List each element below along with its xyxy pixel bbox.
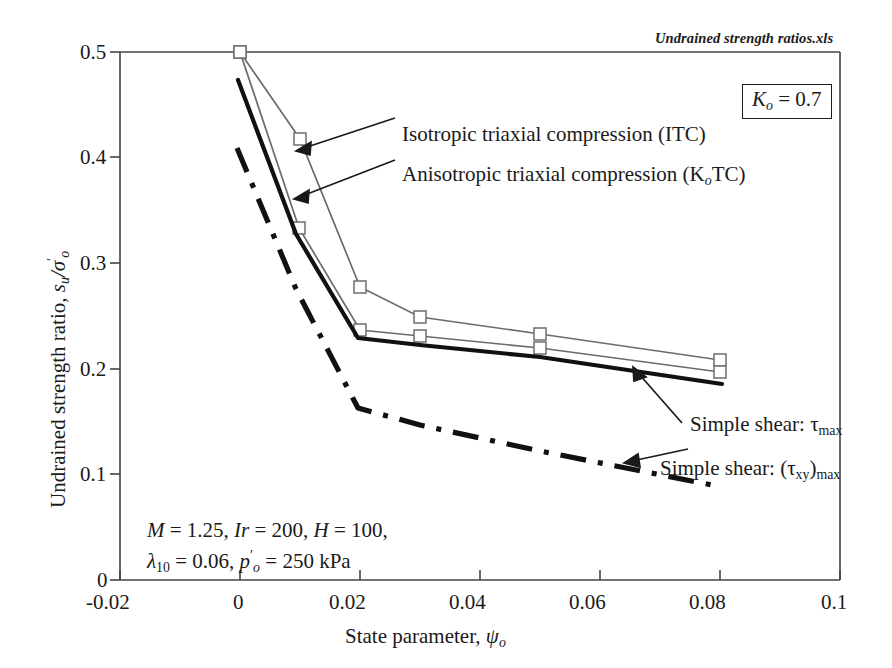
y-tick-label-0.2: 0.2 — [80, 357, 106, 382]
x-axis-label-symbol: ψ — [486, 624, 499, 648]
annotation-simple-shear-txy-max: Simple shear: (τxy)max — [660, 456, 840, 483]
ko-symbol: K — [752, 87, 766, 111]
figure-root: Undrained strength ratios.xls — [0, 0, 892, 668]
param-p-value: = 250 kPa — [260, 549, 351, 573]
x-tick-label-0: 0 — [233, 590, 244, 615]
param-H-value: = 100, — [329, 518, 388, 542]
x-tick-label-0.1: 0.1 — [821, 590, 847, 615]
y-tick-label-0.4: 0.4 — [80, 145, 106, 170]
annotation-kotc: Anisotropic triaxial compression (KoTC) — [402, 162, 745, 189]
annotation-simple-shear-tmax: Simple shear: τmax — [690, 412, 842, 439]
y-tick-label-0.3: 0.3 — [80, 251, 106, 276]
annotation-itc: Isotropic triaxial compression (ITC) — [402, 122, 706, 147]
param-lambda: λ — [147, 549, 156, 573]
param-H: H — [314, 518, 329, 542]
annotation-kotc-subscript: o — [705, 173, 712, 188]
x-tick-label-0.06: 0.06 — [569, 590, 606, 615]
y-axis-label: Undrained strength ratio, su/σ′o — [45, 251, 73, 508]
ko-value-box: Ko = 0.7 — [742, 84, 832, 119]
series-simple-shear-txy-max — [237, 148, 722, 487]
y-axis-ticks — [110, 52, 120, 580]
x-axis-label: State parameter, ψo — [345, 624, 506, 651]
annotation-ss-txy-subscript-xy: xy — [796, 467, 810, 482]
y-axis-label-text: Undrained strength ratio, — [46, 292, 70, 508]
x-tick-label--0.02: -0.02 — [86, 590, 130, 615]
param-lambda-value: = 0.06, — [170, 549, 240, 573]
y-axis-label-den-subscript: o — [57, 251, 72, 258]
param-Ir: Ir — [234, 518, 249, 542]
y-tick-label-0.1: 0.1 — [80, 462, 106, 487]
annotation-ss-tmax-subscript: max — [819, 423, 843, 438]
annotation-kotc-part2: TC) — [712, 162, 746, 186]
ko-subscript: o — [766, 98, 773, 113]
series-itc — [234, 46, 726, 366]
annotation-ss-txy-text: Simple shear: (τ — [660, 456, 796, 480]
y-axis-label-prime: ′ — [45, 258, 60, 261]
y-axis-label-denominator: /σ — [46, 261, 70, 277]
series-kotc — [234, 46, 726, 378]
param-M-value: = 1.25, — [165, 518, 235, 542]
source-filename-note: Undrained strength ratios.xls — [655, 30, 833, 47]
x-axis-label-subscript: o — [499, 635, 506, 650]
param-lambda-subscript: 10 — [156, 560, 170, 575]
parameters-line-2: λ10 = 0.06, p′o = 250 kPa — [147, 548, 351, 576]
param-p-subscript: o — [253, 560, 260, 575]
x-tick-label-0.02: 0.02 — [329, 590, 366, 615]
x-tick-label-0.04: 0.04 — [449, 590, 486, 615]
y-axis-label-subscript: u — [57, 277, 72, 284]
x-tick-label-0.08: 0.08 — [689, 590, 726, 615]
annotation-ss-tmax-text: Simple shear: τ — [690, 412, 819, 436]
annotation-kotc-part1: Anisotropic triaxial compression (K — [402, 162, 705, 186]
param-Ir-value: = 200, — [249, 518, 313, 542]
ko-equals-value: = 0.7 — [773, 87, 822, 111]
parameters-line-1: M = 1.25, Ir = 200, H = 100, — [147, 518, 388, 543]
x-axis-label-text: State parameter, — [345, 624, 486, 648]
y-axis-label-symbol: s — [46, 284, 70, 292]
param-M: M — [147, 518, 165, 542]
param-p: p — [240, 549, 251, 573]
annotation-ss-txy-subscript-max: max — [816, 467, 840, 482]
y-tick-label-0.5: 0.5 — [80, 40, 106, 65]
